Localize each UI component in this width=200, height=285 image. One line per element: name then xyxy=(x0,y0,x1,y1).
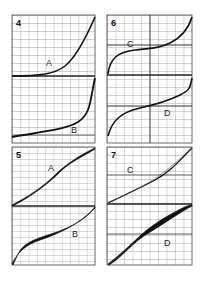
curve-label-d: D xyxy=(164,238,171,248)
panel-number: 4 xyxy=(16,18,21,28)
figure-canvas: 4 A B 6 C D 5 A B 7 C D xyxy=(0,0,200,285)
curve-label-c: C xyxy=(127,39,134,49)
curve-label-d: D xyxy=(164,108,171,118)
panel-6: 6 C D xyxy=(107,15,192,143)
panel-7: 7 C D xyxy=(107,147,192,265)
panel-number: 6 xyxy=(111,18,116,28)
panel-number: 5 xyxy=(16,150,21,160)
panel-5: 5 A B xyxy=(12,147,95,265)
curve-label-c: C xyxy=(127,165,134,175)
curve-label-b: B xyxy=(72,229,78,239)
curve-label-b: B xyxy=(71,125,77,135)
curve-label-a: A xyxy=(48,163,54,173)
panel-number: 7 xyxy=(111,150,116,160)
curve-label-a: A xyxy=(46,58,52,68)
panel-4: 4 A B xyxy=(12,15,95,143)
